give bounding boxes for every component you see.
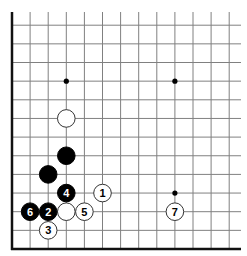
star-point bbox=[64, 79, 69, 84]
white-stone bbox=[58, 110, 76, 128]
stone-body bbox=[58, 110, 76, 128]
black-stone-2: 2 bbox=[39, 203, 57, 221]
stone-body bbox=[39, 166, 57, 184]
move-number: 4 bbox=[63, 187, 70, 199]
star-point bbox=[172, 190, 177, 195]
move-number: 6 bbox=[27, 206, 33, 218]
white-stone-5: 5 bbox=[76, 203, 94, 221]
star-point bbox=[172, 79, 177, 84]
black-stone-4: 4 bbox=[58, 184, 76, 202]
white-stone-3: 3 bbox=[39, 222, 57, 240]
move-number: 5 bbox=[81, 206, 87, 218]
move-number: 7 bbox=[172, 206, 178, 218]
move-number: 3 bbox=[45, 224, 51, 236]
black-stone bbox=[39, 166, 57, 184]
go-board: 1234567 bbox=[0, 0, 247, 256]
black-stone-6: 6 bbox=[21, 203, 39, 221]
white-stone-7: 7 bbox=[166, 203, 184, 221]
move-number: 2 bbox=[45, 206, 51, 218]
black-stone bbox=[58, 147, 76, 165]
stone-body bbox=[58, 147, 76, 165]
white-stone bbox=[58, 203, 76, 221]
white-stone-1: 1 bbox=[94, 184, 112, 202]
stone-body bbox=[58, 203, 76, 221]
move-number: 1 bbox=[99, 187, 105, 199]
